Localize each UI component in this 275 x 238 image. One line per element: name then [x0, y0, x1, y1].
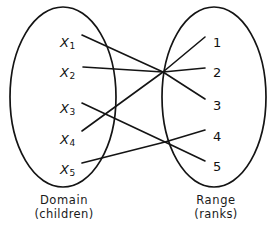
domain-element-x1: X1 — [60, 36, 75, 51]
domain-element-x2: X2 — [60, 66, 75, 81]
mapping-edges — [82, 35, 205, 163]
set-boundaries — [10, 7, 266, 187]
domain-element-x1-subscript: 1 — [69, 41, 75, 51]
range-element-r4: 4 — [213, 130, 221, 143]
domain-caption: Domain (children) — [12, 193, 116, 222]
domain-caption-title: Domain — [40, 193, 88, 207]
mapping-diagram: X1 X2 X3 X4 X5 1 2 3 4 5 Domain (childre… — [0, 0, 275, 238]
domain-element-x3-subscript: 3 — [69, 107, 75, 117]
range-element-r1: 1 — [213, 36, 221, 49]
domain-caption-subtitle: (children) — [12, 207, 116, 221]
domain-element-x4: X4 — [60, 133, 75, 148]
mapping-edge-x1-to-r3 — [82, 35, 205, 99]
mapping-edge-x5-to-r4 — [82, 130, 205, 163]
domain-element-x5-label: X — [60, 162, 69, 177]
range-element-r5: 5 — [213, 160, 221, 173]
range-element-r3: 3 — [213, 99, 221, 112]
mapping-edge-x3-to-r5 — [82, 103, 205, 161]
domain-element-x1-label: X — [60, 35, 69, 50]
domain-element-x2-subscript: 2 — [69, 71, 75, 81]
domain-element-x4-subscript: 4 — [69, 138, 75, 148]
domain-ellipse — [10, 7, 116, 187]
mapping-edge-x2-to-r2 — [83, 67, 205, 72]
range-caption-title: Range — [196, 193, 235, 207]
mapping-edge-x4-to-r1 — [82, 37, 205, 131]
domain-element-x4-label: X — [60, 132, 69, 147]
domain-element-x5-subscript: 5 — [69, 168, 75, 178]
range-element-r2: 2 — [213, 66, 221, 79]
domain-element-x3: X3 — [60, 102, 75, 117]
range-caption-subtitle: (ranks) — [166, 207, 266, 221]
range-caption: Range (ranks) — [166, 193, 266, 222]
domain-element-x5: X5 — [60, 163, 75, 178]
domain-element-x2-label: X — [60, 65, 69, 80]
domain-element-x3-label: X — [60, 101, 69, 116]
